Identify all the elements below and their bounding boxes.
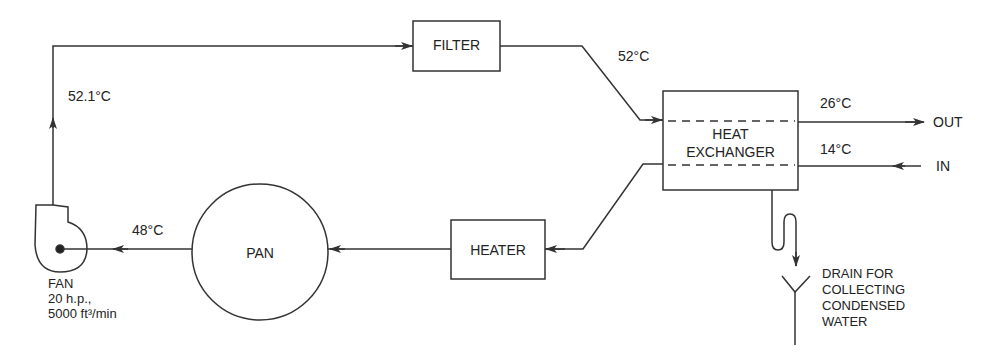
drain-label-block: DRAIN FOR COLLECTING CONDENSED WATER — [822, 266, 905, 330]
temp-after-fan: 52.1°C — [68, 88, 111, 104]
hx-label-line2: EXCHANGER — [663, 143, 798, 161]
fan-flow: 5000 ft³/min — [48, 306, 117, 321]
fan-label: FAN — [48, 276, 117, 291]
drain-line2: COLLECTING — [822, 282, 905, 298]
port-in-label: IN — [936, 158, 950, 174]
temp-after-filter: 52°C — [618, 48, 649, 64]
hx-label-line1: HEAT — [663, 125, 798, 143]
drain-pipe — [772, 190, 810, 345]
drain-line4: WATER — [822, 314, 905, 330]
port-out-label: OUT — [933, 114, 963, 130]
fan-power: 20 h.p., — [48, 291, 117, 306]
temp-coolant-in: 14°C — [820, 141, 851, 157]
pan-label: PAN — [192, 245, 328, 261]
fan-label-block: FAN 20 h.p., 5000 ft³/min — [48, 276, 117, 321]
drain-line1: DRAIN FOR — [822, 266, 905, 282]
flow-fan-to-filter — [53, 46, 413, 205]
heat-exchanger-label: HEAT EXCHANGER — [663, 125, 798, 161]
temp-after-pan: 48°C — [132, 222, 163, 238]
fan-housing — [35, 205, 87, 272]
fan-hub — [56, 245, 64, 253]
filter-label: FILTER — [413, 37, 500, 53]
drain-line3: CONDENSED — [822, 298, 905, 314]
temp-coolant-out: 26°C — [820, 95, 851, 111]
flow-hx-to-heater — [545, 164, 663, 249]
heater-label: HEATER — [451, 242, 545, 258]
